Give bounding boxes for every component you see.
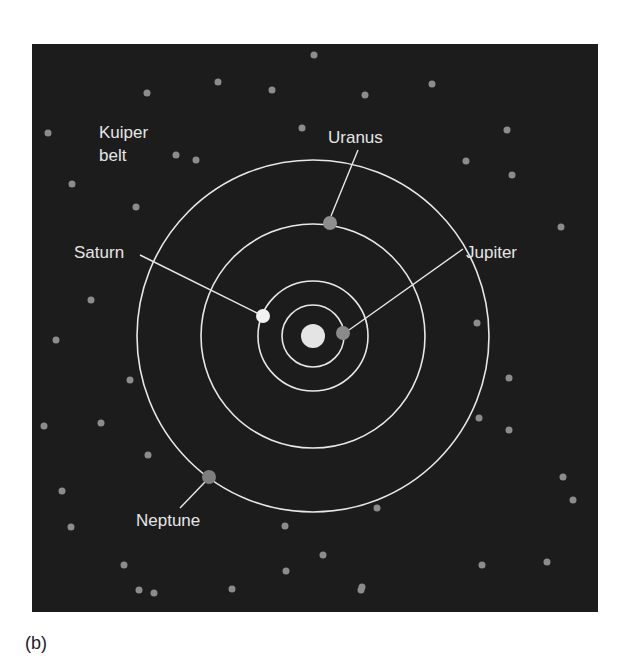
saturn-label: Saturn bbox=[74, 243, 124, 263]
kuiper-belt-object bbox=[229, 586, 236, 593]
kuiper-belt-object bbox=[311, 52, 318, 59]
kuiper-belt-object bbox=[53, 337, 60, 344]
kuiper-belt-object bbox=[59, 488, 66, 495]
kuiper-belt-object bbox=[98, 420, 105, 427]
kuiper-belt-object bbox=[282, 523, 289, 530]
kuiper-belt-object bbox=[374, 505, 381, 512]
leader-lines bbox=[140, 150, 463, 508]
kuiper-belt-object bbox=[506, 375, 513, 382]
kuiper-belt-object bbox=[358, 587, 365, 594]
kuiper-belt-object bbox=[299, 125, 306, 132]
saturn-planet-icon bbox=[256, 309, 270, 323]
kuiper-belt-object bbox=[145, 452, 152, 459]
kuiper-belt-object bbox=[68, 524, 75, 531]
kuiper-belt-object bbox=[544, 559, 551, 566]
jupiter-label: Jupiter bbox=[466, 243, 517, 263]
kuiper-belt-object bbox=[504, 127, 511, 134]
kuiper-belt-object bbox=[479, 562, 486, 569]
kuiper-belt-object bbox=[476, 415, 483, 422]
neptune-label: Neptune bbox=[136, 511, 200, 531]
kuiper-belt-object bbox=[506, 427, 513, 434]
kuiper-belt-object bbox=[88, 297, 95, 304]
kuiper-belt-object bbox=[136, 587, 143, 594]
uranus-label: Uranus bbox=[328, 128, 383, 148]
kuiper-belt-object bbox=[41, 423, 48, 430]
kuiper-belt-object bbox=[474, 320, 481, 327]
kuiper-belt-object bbox=[570, 497, 577, 504]
uranus-leader-line bbox=[331, 150, 358, 216]
kuiper-belt-object bbox=[151, 590, 158, 597]
saturn-leader-line bbox=[140, 255, 257, 313]
kuiper-belt-object bbox=[127, 377, 134, 384]
uranus-planet-icon bbox=[323, 216, 337, 230]
kuiper-belt-object bbox=[121, 562, 128, 569]
sun-icon bbox=[301, 324, 325, 348]
neptune-leader-line bbox=[180, 482, 205, 508]
kuiper-belt-object bbox=[193, 157, 200, 164]
jupiter-leader-line bbox=[349, 249, 463, 330]
kuiper-belt-label-line1: Kuiper bbox=[99, 123, 148, 143]
kuiper-belt-object bbox=[283, 568, 290, 575]
kuiper-belt-object bbox=[215, 79, 222, 86]
kuiper-belt-object bbox=[269, 87, 276, 94]
kuiper-belt-object bbox=[362, 92, 369, 99]
kuiper-belt-object bbox=[558, 224, 565, 231]
neptune-planet-icon bbox=[202, 470, 216, 484]
celestial-bodies bbox=[202, 216, 350, 484]
kuiper-belt-object bbox=[144, 90, 151, 97]
kuiper-belt-object bbox=[173, 152, 180, 159]
kuiper-belt-object bbox=[45, 130, 52, 137]
solar-system-diagram bbox=[0, 0, 632, 662]
kuiper-belt-object bbox=[133, 204, 140, 211]
kuiper-belt-object bbox=[429, 81, 436, 88]
kuiper-belt-object bbox=[509, 172, 516, 179]
jupiter-planet-icon bbox=[336, 326, 350, 340]
kuiper-belt-object bbox=[69, 181, 76, 188]
kuiper-belt-label-line2: belt bbox=[99, 146, 126, 166]
kuiper-belt-object bbox=[320, 552, 327, 559]
kuiper-belt-object bbox=[463, 158, 470, 165]
kuiper-belt-object bbox=[560, 474, 567, 481]
figure-caption: (b) bbox=[25, 633, 47, 654]
